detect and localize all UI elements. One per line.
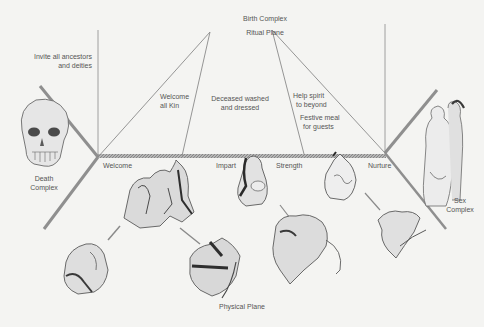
sex-complex-label: Sex Complex: [440, 196, 480, 214]
connector-nurture: [365, 193, 380, 210]
figures-physical-plane-illustration: [190, 238, 240, 298]
physical-plane-label: Physical Plane: [219, 302, 265, 311]
welcome-kin-note: Welcome all Kin: [160, 92, 189, 110]
birth-complex-label: Birth Complex Ritual Plane: [215, 14, 315, 37]
festive-meal-note: Festive meal for guests: [300, 113, 340, 131]
invite-note: Invite all ancestors and deities: [20, 52, 92, 70]
axis-label-impart: Impart: [216, 161, 236, 170]
welcome-kin-line2: all Kin: [160, 101, 189, 110]
ritual-plane-text: Ritual Plane: [215, 28, 315, 37]
womb-infant-illustration: [325, 152, 356, 200]
hands-reaching-illustration: [378, 211, 426, 258]
sex-complex-line2: Complex: [440, 205, 480, 214]
washed-line2: and dressed: [205, 103, 275, 112]
welcome-kin-line1: Welcome: [160, 92, 189, 101]
sex-complex-line1: Sex: [440, 196, 480, 205]
birth-scene-illustration: [124, 160, 194, 228]
apex-to-nurture-line: [272, 30, 385, 153]
welcome-to-apex-line: [98, 32, 210, 157]
help-spirit-note: Help spirit to beyond: [293, 91, 327, 109]
infant-lower-left-illustration: [64, 244, 108, 294]
connector-lower-mid: [180, 228, 200, 244]
invite-note-line1: Invite all ancestors: [20, 52, 92, 61]
deceased-washed-note: Deceased washed and dressed: [205, 94, 275, 112]
embracing-couple-illustration: [423, 101, 464, 206]
axis-label-welcome: Welcome: [103, 161, 132, 170]
axis-label-nurture: Nurture: [368, 161, 391, 170]
ritual-diagram: Birth Complex Ritual Plane Invite all an…: [0, 0, 484, 327]
birth-complex-text: Birth Complex: [215, 14, 315, 23]
death-complex-label: Death Complex: [24, 174, 64, 192]
washed-line1: Deceased washed: [205, 94, 275, 103]
invite-note-line2: and deities: [20, 61, 92, 70]
left-lower-diagonal: [44, 157, 98, 229]
death-complex-line1: Death: [24, 174, 64, 183]
festive-line1: Festive meal: [300, 113, 340, 122]
figures-group-illustration: [273, 215, 341, 284]
death-complex-line2: Complex: [24, 183, 64, 192]
festive-line2: for guests: [300, 122, 340, 131]
skull-illustration: [21, 99, 68, 166]
help-spirit-line2: to beyond: [293, 100, 327, 109]
diagram-lines: [0, 0, 484, 327]
mother-nursing-illustration: [238, 156, 268, 206]
connector-lower-left: [108, 226, 120, 240]
help-spirit-line1: Help spirit: [293, 91, 327, 100]
axis-label-strength: Strength: [276, 161, 302, 170]
